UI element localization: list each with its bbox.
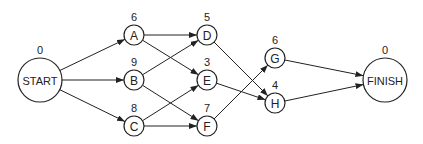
node-value: 9 [131, 56, 137, 68]
node-f: F7 [197, 102, 217, 136]
node-value: 5 [204, 11, 210, 23]
node-label: START [22, 75, 57, 87]
node-h: H4 [265, 79, 285, 113]
node-value: 6 [272, 34, 278, 46]
node-label: C [130, 120, 139, 134]
node-value: 0 [382, 44, 388, 56]
node-label: F [203, 120, 210, 134]
node-finish: FINISH0 [363, 44, 407, 102]
node-label: A [130, 29, 138, 43]
edge-f-to-g [214, 65, 268, 119]
node-label: H [271, 97, 280, 111]
node-b: B9 [124, 56, 144, 90]
network-diagram: START0A6B9C8D5E3F7G6H4FINISH0 [0, 0, 423, 144]
edge-g-to-finish [285, 60, 364, 76]
node-value: 4 [272, 79, 278, 91]
node-label: D [203, 29, 212, 43]
edge-start-to-c [60, 90, 125, 122]
node-label: FINISH [367, 75, 403, 87]
edge-h-to-finish [285, 85, 364, 102]
node-value: 6 [131, 11, 137, 23]
node-g: G6 [265, 34, 285, 68]
nodes-layer: START0A6B9C8D5E3F7G6H4FINISH0 [18, 11, 407, 136]
node-value: 3 [204, 56, 210, 68]
edge-d-to-h [214, 42, 268, 96]
node-c: C8 [124, 102, 144, 136]
node-start: START0 [18, 44, 62, 102]
node-d: D5 [197, 11, 217, 45]
edge-start-to-a [60, 39, 125, 70]
node-e: E3 [197, 56, 217, 90]
node-a: A6 [124, 11, 144, 45]
node-value: 7 [204, 102, 210, 114]
node-value: 0 [37, 44, 43, 56]
node-label: G [270, 52, 279, 66]
node-label: E [203, 74, 211, 88]
node-value: 8 [131, 102, 137, 114]
node-label: B [130, 74, 138, 88]
